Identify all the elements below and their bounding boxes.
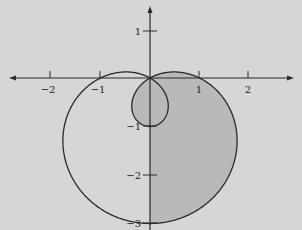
x-tick-label: −1 (91, 84, 106, 95)
x-tick-label: 1 (196, 84, 202, 95)
y-tick-label: −3 (126, 218, 141, 229)
y-tick-label: −2 (126, 170, 141, 181)
x-tick-label: −2 (41, 84, 56, 95)
x-tick-label: 2 (245, 84, 251, 95)
polar-plot: −2 −1 1 2 1 −1 −2 −3 (0, 0, 302, 230)
y-tick-label: 1 (135, 26, 141, 37)
y-tick-label: −1 (126, 121, 141, 132)
